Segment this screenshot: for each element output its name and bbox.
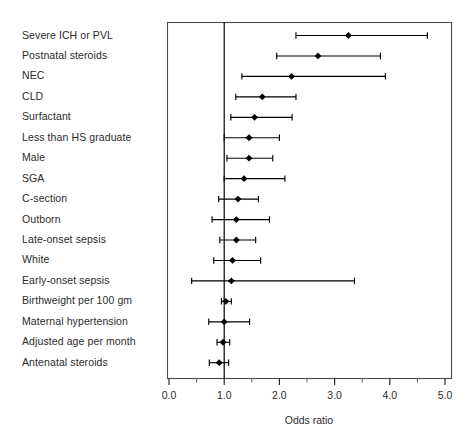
point-estimate-marker <box>345 32 352 39</box>
point-estimate-marker <box>251 114 258 121</box>
point-estimate-marker <box>233 216 240 223</box>
plot-canvas <box>0 0 471 439</box>
forest-row <box>296 32 427 39</box>
forest-row <box>217 339 230 346</box>
forest-row <box>221 298 231 305</box>
forest-row <box>236 93 296 100</box>
point-estimate-marker <box>259 93 266 100</box>
forest-row <box>212 216 269 223</box>
forest-row <box>231 114 292 121</box>
x-tick-label: 1.0 <box>217 389 232 401</box>
point-estimate-marker <box>220 339 227 346</box>
forest-row <box>214 257 261 264</box>
point-estimate-marker <box>233 237 240 244</box>
x-axis-title: Odds ratio <box>285 414 333 426</box>
point-estimate-marker <box>288 73 295 80</box>
point-estimate-marker <box>222 298 229 305</box>
point-estimate-marker <box>315 53 322 60</box>
data-series <box>192 32 428 366</box>
point-estimate-marker <box>235 196 242 203</box>
forest-row <box>277 53 381 60</box>
point-estimate-marker <box>221 318 228 325</box>
x-tick-label: 5.0 <box>438 389 453 401</box>
point-estimate-marker <box>246 155 253 162</box>
forest-row <box>220 237 256 244</box>
forest-row <box>227 155 273 162</box>
forest-row <box>242 73 386 80</box>
point-estimate-marker <box>246 134 253 141</box>
forest-row <box>209 318 250 325</box>
forest-plot-figure: Severe ICH or PVLPostnatal steroidsNECCL… <box>0 0 471 439</box>
x-tick-label: 2.0 <box>272 389 287 401</box>
point-estimate-marker <box>216 359 223 366</box>
x-tick-label: 3.0 <box>327 389 342 401</box>
point-estimate-marker <box>229 257 236 264</box>
x-tick-label: 4.0 <box>382 389 397 401</box>
point-estimate-marker <box>228 278 235 285</box>
forest-row <box>224 134 279 141</box>
forest-row <box>192 278 355 285</box>
forest-row <box>224 175 285 182</box>
point-estimate-marker <box>241 175 248 182</box>
x-tick-label: 0.0 <box>162 389 177 401</box>
forest-row <box>209 359 228 366</box>
